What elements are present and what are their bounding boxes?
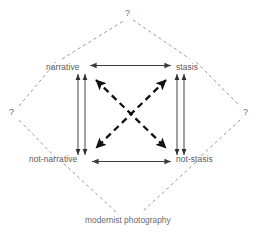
- corner-label-stasis: stasis: [176, 63, 198, 71]
- diamond-edge-bottom-notnarrative: [62, 162, 116, 212]
- diamond-edge-narrative-top: [62, 20, 125, 59]
- diamond-edge-notstasis-bottom: [142, 162, 196, 212]
- apex-label-top-question: ?: [125, 9, 130, 18]
- diamond-edge-right-notstasis: [199, 120, 240, 158]
- diamond-edge-top-stasis: [133, 20, 190, 59]
- outer-diamond-dashed-path: [19, 20, 240, 212]
- diamond-edge-notnarrative-left: [19, 120, 56, 158]
- apex-label-right-question: ?: [243, 108, 248, 117]
- semiotic-square-diagram: narrative stasis not-narrative not-stasi…: [0, 0, 258, 236]
- corner-label-not-stasis: not-stasis: [176, 155, 213, 163]
- apex-label-left-question: ?: [9, 108, 14, 117]
- diamond-edge-stasis-right: [196, 62, 240, 106]
- corner-label-narrative: narrative: [46, 63, 79, 71]
- diagram-canvas: [0, 0, 258, 236]
- corner-label-not-narrative: not-narrative: [29, 155, 77, 163]
- apex-label-bottom-modernist-photography: modernist photography: [85, 216, 171, 224]
- relation-narrative-notnarrative: [78, 74, 85, 155]
- relation-stasis-notstasis: [177, 74, 184, 155]
